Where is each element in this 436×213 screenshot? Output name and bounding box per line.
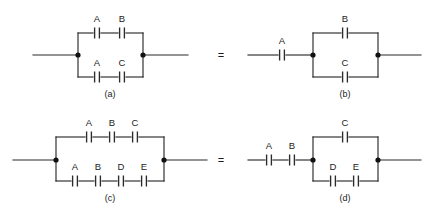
capacitor-symbol <box>95 28 100 39</box>
capacitor-label: A <box>72 161 79 172</box>
circuit-c-caption: (c) <box>105 193 116 203</box>
circuit-figure: A B A C (a) = <box>0 0 436 213</box>
capacitor-symbol <box>343 72 348 83</box>
capacitor-label: E <box>141 161 147 172</box>
circuit-a: A B A C (a) <box>33 13 188 99</box>
capacitor-label: B <box>342 13 348 24</box>
capacitor-label: B <box>119 13 125 24</box>
capacitor-symbol <box>95 72 100 83</box>
capacitor-symbol <box>119 176 124 187</box>
capacitor-label: B <box>109 117 115 128</box>
capacitor-symbol <box>280 50 285 61</box>
capacitor-symbol <box>343 28 348 39</box>
capacitor-symbol <box>120 72 125 83</box>
circuit-a-caption: (a) <box>105 89 116 99</box>
capacitor-symbol <box>87 132 92 143</box>
junction-dot <box>375 157 380 162</box>
capacitor-label: B <box>95 161 101 172</box>
capacitor-label: C <box>119 57 126 68</box>
circuit-c: A B C A B D E (c) <box>13 117 207 203</box>
circuit-d-caption: (d) <box>340 193 351 203</box>
circuit-b: A B C (b) <box>248 13 421 99</box>
capacitor-symbol <box>331 176 336 187</box>
capacitor-label: B <box>289 140 295 151</box>
junction-dot <box>53 157 58 162</box>
capacitor-symbol <box>73 176 78 187</box>
circuit-b-caption: (b) <box>340 89 351 99</box>
junction-dot <box>310 157 315 162</box>
capacitor-symbol <box>110 132 115 143</box>
circuit-d: A B C D E (d) <box>248 117 421 203</box>
capacitor-label: C <box>342 117 349 128</box>
equals-sign-top: = <box>218 49 224 61</box>
junction-dot <box>161 157 166 162</box>
capacitor-symbol <box>142 176 147 187</box>
equals-sign-bottom: = <box>218 154 224 166</box>
circuit-diagram-svg: A B A C (a) = <box>0 0 436 213</box>
capacitor-symbol <box>267 155 272 166</box>
capacitor-symbol <box>96 176 101 187</box>
capacitor-label: D <box>330 161 337 172</box>
capacitor-label: A <box>94 13 101 24</box>
junction-dot <box>75 52 80 57</box>
capacitor-label: A <box>279 35 286 46</box>
junction-dot <box>310 52 315 57</box>
capacitor-label: A <box>266 140 273 151</box>
capacitor-symbol <box>290 155 295 166</box>
capacitor-symbol <box>343 132 348 143</box>
capacitor-symbol <box>133 132 138 143</box>
capacitor-label: D <box>118 161 125 172</box>
capacitor-label: C <box>132 117 139 128</box>
junction-dot <box>375 52 380 57</box>
capacitor-symbol <box>120 28 125 39</box>
junction-dot <box>140 52 145 57</box>
capacitor-label: E <box>353 161 359 172</box>
capacitor-label: C <box>342 57 349 68</box>
capacitor-label: A <box>94 57 101 68</box>
capacitor-symbol <box>354 176 359 187</box>
capacitor-label: A <box>86 117 93 128</box>
